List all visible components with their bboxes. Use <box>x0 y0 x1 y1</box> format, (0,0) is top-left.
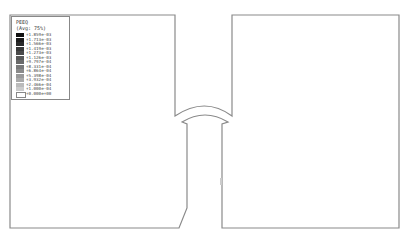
legend-swatch <box>16 78 24 82</box>
model-viewport[interactable]: PEEQ (Avg: 75%) +1.859e-03+1.713e-03+1.5… <box>0 0 408 239</box>
legend-swatch <box>16 87 24 91</box>
legend-swatch <box>16 47 24 51</box>
legend-swatch <box>16 56 24 60</box>
legend-swatch <box>16 60 24 64</box>
legend-swatch <box>16 38 24 42</box>
legend-swatch <box>16 65 24 69</box>
legend-swatch <box>16 33 24 37</box>
legend-swatch <box>16 74 24 78</box>
legend-value: +0.000e+00 <box>26 91 51 96</box>
legend-swatch <box>16 42 24 46</box>
contour-legend: PEEQ (Avg: 75%) +1.859e-03+1.713e-03+1.5… <box>11 16 70 100</box>
legend-swatch <box>16 92 26 98</box>
legend-swatch <box>16 83 24 87</box>
legend-entry: +0.000e+00 <box>16 92 68 96</box>
legend-swatch <box>16 69 24 73</box>
legend-swatch <box>16 51 24 55</box>
mesh-artifact <box>220 178 222 185</box>
legend-subtitle: (Avg: 75%) <box>16 25 46 31</box>
